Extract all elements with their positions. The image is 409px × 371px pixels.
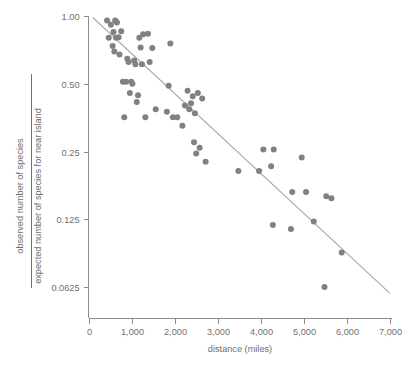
regression-trend-line bbox=[93, 17, 390, 293]
scatter-point bbox=[190, 93, 196, 99]
scatter-point bbox=[268, 163, 274, 169]
x-axis-group: 01,0002,0003,0004,0005,0006,0007,000 bbox=[87, 319, 402, 337]
x-tick-label: 5,000 bbox=[293, 327, 316, 337]
scatter-point bbox=[149, 45, 155, 51]
scatter-point bbox=[145, 31, 151, 37]
scatter-point bbox=[186, 106, 192, 112]
scatter-point bbox=[106, 35, 112, 41]
scatter-point bbox=[127, 90, 133, 96]
scatter-point bbox=[260, 147, 266, 153]
scatter-point bbox=[135, 92, 141, 98]
y-axis-tick-labels: 1.000.500.250.1250.0625 bbox=[51, 12, 79, 293]
x-tick-label: 2,000 bbox=[164, 327, 187, 337]
x-axis-tick-labels: 01,0002,0003,0004,0005,0006,0007,000 bbox=[87, 327, 402, 337]
scatter-point bbox=[195, 90, 201, 96]
scatter-point bbox=[323, 193, 329, 199]
scatter-point bbox=[129, 81, 135, 87]
scatter-point bbox=[166, 83, 172, 89]
scatter-point bbox=[147, 59, 153, 65]
x-tick-label: 1,000 bbox=[121, 327, 144, 337]
scatter-point bbox=[322, 284, 328, 290]
scatter-point bbox=[185, 88, 191, 94]
y-tick-label: 0.125 bbox=[57, 215, 80, 225]
scatter-point bbox=[197, 145, 203, 151]
scatter-point bbox=[256, 168, 262, 174]
scatter-point bbox=[179, 123, 185, 129]
y-tick-label: 1.00 bbox=[62, 12, 80, 22]
scatter-point bbox=[164, 109, 170, 115]
scatter-point bbox=[118, 28, 124, 34]
x-tick-label: 0 bbox=[87, 327, 92, 337]
scatter-point bbox=[138, 44, 144, 50]
y-tick-label: 0.0625 bbox=[51, 283, 79, 293]
scatter-point bbox=[235, 168, 241, 174]
scatter-point bbox=[188, 100, 194, 106]
scatter-point bbox=[339, 249, 345, 255]
y-axis-title: observed number of species expected numb… bbox=[15, 74, 43, 288]
scatter-point bbox=[167, 40, 173, 46]
x-axis-title: distance (miles) bbox=[208, 344, 272, 354]
scatter-point bbox=[270, 222, 276, 228]
scatter-point bbox=[311, 219, 317, 225]
x-tick-label: 3,000 bbox=[207, 327, 230, 337]
scatter-point bbox=[108, 22, 114, 28]
scatter-point bbox=[303, 189, 309, 195]
scatter-point bbox=[193, 150, 199, 156]
y-tick-label: 0.25 bbox=[62, 148, 80, 158]
x-tick-label: 4,000 bbox=[250, 327, 273, 337]
y-tick-label: 0.50 bbox=[62, 80, 80, 90]
scatter-point bbox=[123, 79, 129, 85]
scatter-point bbox=[132, 61, 138, 67]
scatter-point bbox=[117, 51, 123, 57]
scatter-point bbox=[134, 99, 140, 105]
scatter-point bbox=[142, 114, 148, 120]
scatter-point bbox=[114, 20, 120, 26]
y-axis-group: 1.000.500.250.1250.0625 bbox=[51, 12, 88, 318]
y-axis-denominator-label: expected number of species for near isla… bbox=[33, 108, 43, 284]
scatter-point bbox=[199, 95, 205, 101]
scatter-point bbox=[121, 114, 127, 120]
scatter-point bbox=[174, 114, 180, 120]
x-axis-title-label: distance (miles) bbox=[208, 344, 272, 354]
scatter-point bbox=[289, 189, 295, 195]
y-axis-ticks bbox=[84, 17, 89, 288]
scatter-point bbox=[116, 34, 122, 40]
y-axis-numerator-label: observed number of species bbox=[15, 138, 25, 254]
scatter-plot-figure: 1.000.500.250.1250.0625 01,0002,0003,000… bbox=[0, 0, 409, 371]
scatter-point bbox=[328, 195, 334, 201]
scatter-point bbox=[203, 159, 209, 165]
x-tick-label: 7,000 bbox=[379, 327, 402, 337]
scatter-point bbox=[271, 147, 277, 153]
scatter-point bbox=[110, 43, 116, 49]
x-tick-label: 6,000 bbox=[336, 327, 359, 337]
chart-canvas: 1.000.500.250.1250.0625 01,0002,0003,000… bbox=[0, 0, 409, 371]
scatter-point bbox=[191, 139, 197, 145]
scatter-point bbox=[299, 155, 305, 161]
scatter-points-group bbox=[104, 18, 345, 291]
scatter-point bbox=[111, 49, 117, 55]
scatter-point bbox=[288, 226, 294, 232]
scatter-point bbox=[192, 110, 198, 116]
x-axis-ticks bbox=[90, 319, 391, 324]
trend-line-group bbox=[93, 17, 390, 293]
scatter-point bbox=[153, 106, 159, 112]
scatter-point bbox=[126, 59, 132, 65]
scatter-point bbox=[110, 29, 116, 35]
scatter-point bbox=[139, 61, 145, 67]
